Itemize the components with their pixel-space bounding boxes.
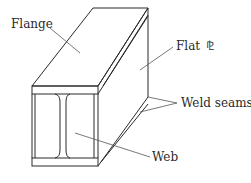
leader-lines bbox=[50, 28, 177, 157]
flat-plate-side bbox=[98, 8, 148, 166]
label-flange: Flange bbox=[11, 17, 53, 31]
label-web: Web bbox=[152, 150, 178, 164]
flange-front-edge bbox=[32, 86, 98, 94]
front-face bbox=[32, 94, 98, 158]
flange-side-edge bbox=[98, 8, 148, 94]
box-section-diagram: Flange Flat ⅊ Weld seams Web bbox=[0, 0, 251, 183]
i-web bbox=[55, 94, 70, 158]
label-flat-plate: Flat bbox=[176, 39, 200, 53]
label-weld-seams: Weld seams bbox=[181, 96, 251, 110]
plate-symbol: ⅊ bbox=[206, 39, 214, 53]
bottom-flange bbox=[32, 158, 98, 166]
